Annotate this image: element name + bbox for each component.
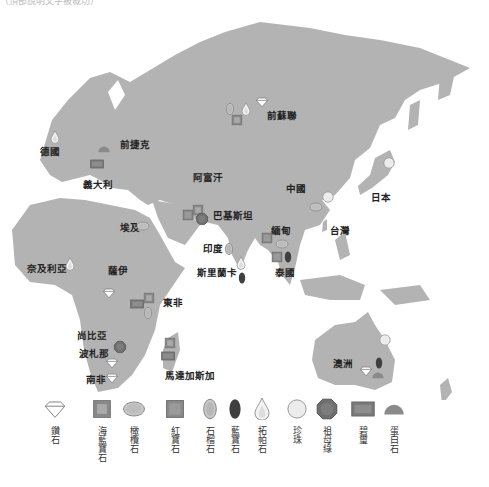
diamond-icon bbox=[103, 289, 114, 298]
ruby-icon bbox=[262, 233, 272, 243]
aquamarine-icon bbox=[165, 338, 175, 348]
pearl-icon bbox=[380, 335, 390, 345]
legend-label: 橄欖石 bbox=[129, 426, 139, 453]
emerald-icon bbox=[316, 398, 338, 420]
legend-label: 蛋白石 bbox=[389, 426, 399, 453]
jade-icon bbox=[131, 300, 144, 308]
tourmaline-icon bbox=[199, 398, 221, 420]
agate-icon bbox=[276, 240, 288, 248]
ruby-icon bbox=[164, 398, 186, 420]
jade-icon bbox=[350, 398, 376, 420]
aquamarine-icon bbox=[91, 398, 113, 420]
tourmaline-icon bbox=[226, 103, 233, 114]
emerald-icon bbox=[196, 213, 207, 224]
agate-icon bbox=[310, 203, 322, 211]
legend-label: 藍寶石 bbox=[230, 426, 240, 453]
pearl-icon bbox=[384, 158, 394, 168]
legend-label: 石榴石 bbox=[205, 426, 215, 453]
agate-icon bbox=[137, 222, 149, 230]
legend-item-jade: 碧璽 bbox=[350, 398, 376, 444]
emerald-icon bbox=[114, 341, 125, 352]
tourmaline-icon bbox=[144, 307, 151, 318]
pearl-icon bbox=[323, 192, 333, 202]
legend-item-diamond: 鑽石 bbox=[42, 398, 68, 444]
agate-icon bbox=[123, 398, 145, 420]
legend-item-ruby: 紅寶石 bbox=[162, 398, 188, 453]
aquamarine-icon bbox=[232, 115, 242, 125]
sapphire-icon bbox=[239, 272, 245, 283]
diamond-icon bbox=[106, 374, 117, 383]
legend-label: 珍珠 bbox=[292, 426, 302, 444]
opal-icon bbox=[98, 147, 109, 153]
ruby-icon bbox=[272, 252, 282, 262]
aquamarine-icon bbox=[144, 293, 154, 303]
topaz-icon bbox=[66, 258, 74, 271]
legend-item-agate: 橄欖石 bbox=[121, 398, 147, 453]
opal-icon bbox=[372, 373, 383, 379]
topaz-icon bbox=[51, 131, 59, 144]
tourmaline-icon bbox=[225, 243, 232, 254]
legend-label: 海藍寶石 bbox=[97, 426, 107, 462]
legend-item-pearl: 珍珠 bbox=[284, 398, 310, 444]
legend-item-tourmaline: 石榴石 bbox=[197, 398, 223, 453]
diamond-icon bbox=[106, 359, 117, 368]
pearl-icon bbox=[286, 398, 308, 420]
legend-item-opal: 蛋白石 bbox=[381, 398, 407, 453]
legend-item-emerald: 祖母綠 bbox=[314, 398, 340, 453]
sapphire-icon bbox=[376, 357, 382, 368]
legend-label: 碧璽 bbox=[358, 426, 368, 444]
jade-icon bbox=[91, 160, 104, 168]
diamond-icon bbox=[256, 98, 267, 107]
opal-icon bbox=[383, 398, 405, 420]
legend-label: 紅寶石 bbox=[170, 426, 180, 453]
legend-label: 祖母綠 bbox=[322, 426, 332, 453]
legend-item-aquamarine: 海藍寶石 bbox=[89, 398, 115, 462]
topaz-icon bbox=[251, 398, 273, 420]
gem-legend: 鑽石 海藍寶石 橄欖石 紅寶石 石榴石 藍寶石 拓帕石 珍珠 祖母綠 碧璽 蛋白… bbox=[22, 398, 462, 487]
legend-item-topaz: 拓帕石 bbox=[249, 398, 275, 453]
topaz-icon bbox=[237, 257, 245, 270]
ruby-icon bbox=[183, 210, 193, 220]
diamond-icon bbox=[44, 398, 66, 420]
legend-label: 拓帕石 bbox=[257, 426, 267, 453]
legend-item-sapphire: 藍寶石 bbox=[222, 398, 248, 453]
sapphire-icon bbox=[224, 398, 246, 420]
gem-markers bbox=[0, 0, 489, 400]
diamond-icon bbox=[360, 367, 371, 376]
sapphire-icon bbox=[285, 251, 291, 262]
jade-icon bbox=[162, 352, 175, 360]
legend-label: 鑽石 bbox=[50, 426, 60, 444]
topaz-icon bbox=[242, 103, 250, 116]
